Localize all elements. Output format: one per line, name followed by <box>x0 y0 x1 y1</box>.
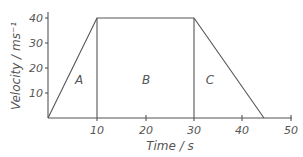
y-tick: 20 <box>29 62 43 75</box>
region-label-a: A <box>74 73 83 87</box>
velocity-time-chart: 10 20 30 40 10 20 30 40 50 A B C Time / … <box>0 0 303 157</box>
y-tick: 40 <box>29 12 43 25</box>
x-axis-title: Time / s <box>146 139 194 153</box>
region-label-b: B <box>142 73 150 87</box>
velocity-line <box>48 18 264 118</box>
x-tick: 20 <box>139 124 153 137</box>
y-axis-title: Velocity / ms⁻¹ <box>9 22 23 110</box>
region-label-c: C <box>206 73 215 87</box>
x-tick: 30 <box>187 124 201 137</box>
y-tick: 10 <box>29 87 43 100</box>
x-tick: 50 <box>284 124 298 137</box>
x-tick: 40 <box>235 124 249 137</box>
y-tick: 30 <box>29 37 43 50</box>
x-tick: 10 <box>90 124 104 137</box>
